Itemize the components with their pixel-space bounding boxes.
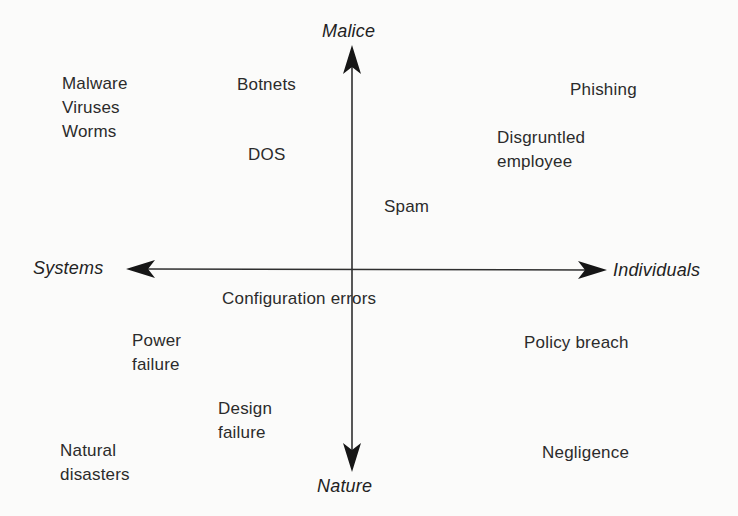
axis-label-malice: Malice	[322, 20, 375, 42]
threat-label-viruses: Viruses	[62, 96, 120, 120]
threat-label-disgruntled-employee: Disgruntled employee	[497, 126, 585, 174]
threat-label-power-failure: Power failure	[132, 329, 181, 377]
horizontal-axis-line	[146, 269, 588, 270]
threat-label-design-failure: Design failure	[218, 397, 272, 445]
threat-label-worms: Worms	[62, 120, 117, 144]
threat-label-malware: Malware	[62, 72, 128, 96]
threat-label-phishing: Phishing	[570, 78, 637, 102]
axis-label-nature: Nature	[317, 475, 372, 497]
threat-label-dos: DOS	[248, 143, 285, 167]
quadrant-diagram: Malice Nature Systems Individuals Malwar…	[0, 0, 738, 516]
threat-label-negligence: Negligence	[542, 441, 629, 465]
threat-label-configuration-errors: Configuration errors	[222, 287, 376, 311]
axis-label-individuals: Individuals	[613, 259, 700, 281]
threat-label-natural-disasters: Natural disasters	[60, 439, 130, 487]
threat-label-botnets: Botnets	[237, 73, 296, 97]
axis-label-systems: Systems	[33, 257, 103, 279]
threat-label-policy-breach: Policy breach	[524, 331, 629, 355]
threat-label-spam: Spam	[384, 195, 429, 219]
